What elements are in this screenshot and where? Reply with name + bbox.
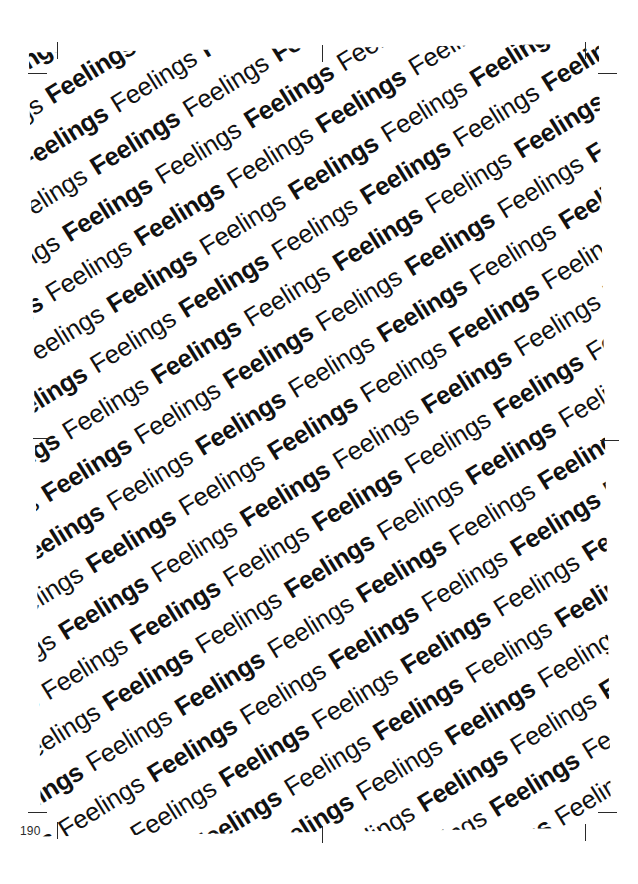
crop-mark-bottom-left-horizontal bbox=[28, 812, 47, 813]
crop-mark-mid-right bbox=[600, 440, 619, 441]
crop-mark-top-right-vertical bbox=[585, 42, 586, 59]
typographic-pattern-artwork: Feelings Feelings Feelings Feelings Feel… bbox=[29, 44, 611, 837]
crop-mark-bottom-left-vertical bbox=[57, 822, 58, 839]
crop-mark-bottom-right-vertical bbox=[585, 824, 586, 841]
pattern-word-gap bbox=[247, 834, 277, 836]
crop-mark-top-left-vertical bbox=[57, 42, 58, 59]
crop-mark-top-center bbox=[322, 45, 323, 62]
crop-mark-bottom-center bbox=[322, 826, 323, 843]
crop-mark-top-left-horizontal bbox=[28, 73, 47, 74]
page-number: 190 bbox=[20, 824, 41, 838]
crop-mark-mid-left bbox=[33, 438, 52, 439]
book-page: Feelings Feelings Feelings Feelings Feel… bbox=[0, 0, 638, 884]
pattern-word-gap bbox=[29, 344, 31, 384]
crop-mark-top-right-horizontal bbox=[598, 73, 617, 74]
pattern-word: Feelings bbox=[598, 44, 611, 112]
repeated-word-field: Feelings Feelings Feelings Feelings Feel… bbox=[29, 44, 611, 837]
crop-mark-bottom-right-horizontal bbox=[598, 812, 617, 813]
pattern-word-gap bbox=[610, 608, 611, 648]
